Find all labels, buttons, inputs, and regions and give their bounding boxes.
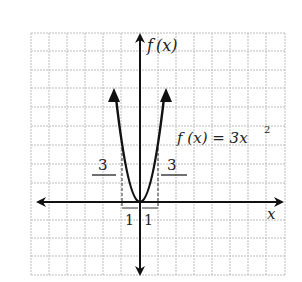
y-axis-label-x: (x) bbox=[156, 36, 178, 55]
x-axis-label: x bbox=[267, 205, 276, 223]
function-label: f (x) = 3x bbox=[176, 129, 248, 147]
run-label-right: 1 bbox=[144, 212, 153, 228]
right-curve-arrow-icon bbox=[160, 88, 172, 102]
left-curve-arrow-icon bbox=[108, 88, 120, 102]
y-axis-label-f: f bbox=[146, 36, 156, 55]
rise-label-right: 3 bbox=[167, 156, 177, 174]
run-label-left: 1 bbox=[125, 212, 134, 228]
function-exponent: 2 bbox=[264, 124, 270, 135]
graph: 3 3 1 1 f (x) x f (x) = 3x 2 bbox=[0, 0, 302, 282]
rise-label-left: 3 bbox=[98, 156, 108, 174]
